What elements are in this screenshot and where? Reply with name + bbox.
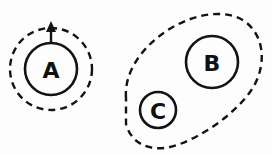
node-label-a: A xyxy=(42,58,59,83)
node-label-c: C xyxy=(150,99,166,124)
node-label-b: B xyxy=(204,51,221,76)
arrow-head-icon xyxy=(46,21,56,32)
diagram-svg: A B C xyxy=(0,0,272,155)
diagram-canvas: A B C xyxy=(0,0,272,155)
